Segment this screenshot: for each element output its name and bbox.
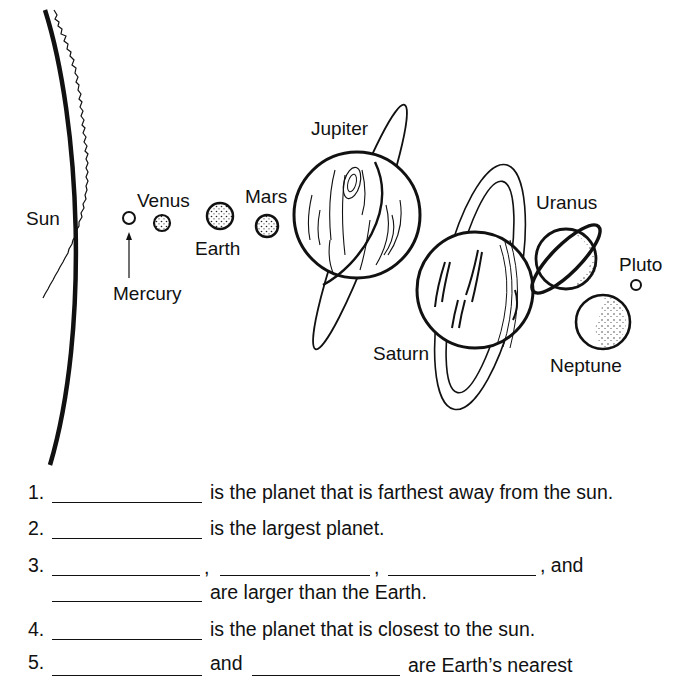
answer-blank-1[interactable]	[52, 502, 202, 503]
label-uranus: Uranus	[536, 193, 597, 212]
question-number: 1.	[28, 483, 44, 503]
question-number: 3.	[28, 556, 44, 576]
label-venus: Venus	[137, 191, 190, 210]
earth-icon	[207, 203, 233, 229]
question-number: 4.	[28, 620, 44, 640]
label-mars: Mars	[245, 187, 287, 206]
uranus-icon	[524, 217, 609, 302]
separator-and: , and	[540, 556, 583, 576]
label-pluto: Pluto	[619, 255, 662, 274]
mercury-icon	[123, 212, 135, 224]
question-text: are larger than the Earth.	[210, 583, 427, 603]
separator-comma: ,	[204, 558, 209, 578]
question-connector: and	[210, 654, 243, 674]
question-text: is the planet that is farthest away from…	[210, 483, 613, 503]
sun-edge-icon	[43, 10, 88, 465]
question-number: 2.	[28, 519, 44, 539]
separator-comma: ,	[374, 558, 379, 578]
answer-blank-4[interactable]	[52, 639, 202, 640]
question-text: is the largest planet.	[210, 519, 385, 539]
label-earth: Earth	[195, 239, 240, 258]
label-sun: Sun	[26, 209, 60, 228]
answer-blank-3c[interactable]	[388, 575, 536, 576]
answer-blank-2[interactable]	[52, 538, 202, 539]
answer-blank-3d[interactable]	[52, 601, 202, 602]
pluto-icon	[631, 280, 641, 290]
solar-system-diagram: Sun Mercury Venus Earth Mars Jupiter Sat…	[0, 0, 684, 470]
saturn-icon	[417, 157, 543, 417]
label-mercury: Mercury	[113, 284, 182, 303]
neptune-icon	[576, 295, 630, 349]
question-number: 5.	[28, 653, 44, 673]
venus-icon	[154, 215, 170, 231]
mars-icon	[256, 215, 278, 237]
answer-blank-3b[interactable]	[220, 575, 370, 576]
answer-blank-3a[interactable]	[52, 575, 200, 576]
planets-illustration	[0, 0, 684, 470]
label-jupiter: Jupiter	[311, 119, 368, 138]
question-text: is the planet that is closest to the sun…	[210, 620, 535, 640]
label-neptune: Neptune	[550, 356, 622, 375]
label-saturn: Saturn	[373, 344, 429, 363]
question-text: are Earth’s nearest	[408, 656, 572, 676]
